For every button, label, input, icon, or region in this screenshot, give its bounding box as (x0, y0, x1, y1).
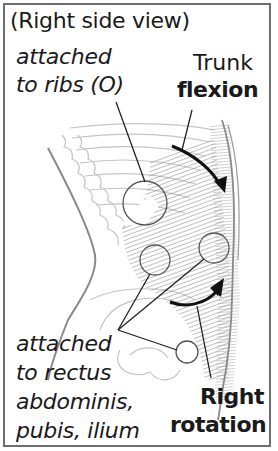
insertion-label-line3: abdominis, (16, 391, 134, 413)
leader-origin (116, 102, 145, 182)
action-trunk-label: Trunk (193, 52, 253, 74)
insertion-circle-pubis (176, 341, 198, 363)
leader-flexion (182, 110, 192, 150)
insertion-label-line2: to rectus (16, 362, 111, 384)
origin-label-line2: to ribs (O) (16, 74, 124, 96)
origin-label-line1: attached (16, 46, 111, 68)
action-right-label: Right (200, 386, 264, 408)
leader-pubis (118, 330, 177, 350)
insertion-label-line4: pubis, ilium (16, 420, 140, 442)
action-rotation-label: rotation (170, 414, 266, 436)
view-title: (Right side view) (10, 10, 190, 32)
leader-ilium (118, 274, 150, 330)
insertion-label-line1: attached (16, 333, 111, 355)
action-flexion-label: flexion (177, 79, 258, 101)
